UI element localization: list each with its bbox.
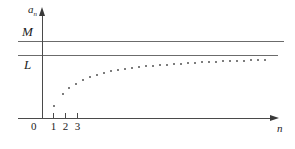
data-point [75, 83, 77, 85]
data-point [96, 74, 98, 76]
data-point [103, 72, 105, 74]
data-point [173, 63, 175, 65]
data-point [159, 64, 161, 66]
data-point [145, 65, 147, 67]
data-point [180, 63, 182, 65]
data-point [124, 68, 126, 70]
data-point [187, 62, 189, 64]
data-point [89, 76, 91, 78]
x-axis-tick [53, 113, 54, 119]
x-axis [18, 118, 273, 119]
x-axis-arrow-icon [270, 115, 279, 121]
sequence-convergence-figure: M L an n 0 123 [0, 0, 295, 149]
data-point [222, 60, 224, 62]
data-point [229, 60, 231, 62]
data-point [250, 59, 252, 61]
y-axis-label: an [28, 4, 37, 18]
data-point [208, 61, 210, 63]
data-point [53, 105, 55, 107]
y-axis [42, 14, 43, 119]
data-point [62, 93, 64, 95]
y-axis-arrow-icon [39, 7, 45, 16]
x-axis-tick [65, 113, 66, 119]
origin-label: 0 [31, 121, 37, 132]
x-axis-tick-label: 2 [61, 121, 71, 132]
x-axis-tick-label: 1 [49, 121, 59, 132]
data-point [264, 59, 266, 61]
data-point [68, 87, 70, 89]
data-point [215, 61, 217, 63]
data-point [138, 66, 140, 68]
y-axis-label-subscript: n [34, 10, 38, 18]
data-point [166, 64, 168, 66]
data-point [110, 70, 112, 72]
x-axis-tick-label: 3 [73, 121, 83, 132]
upper-bound-line-M [18, 41, 284, 42]
data-point [82, 79, 84, 81]
data-point [236, 60, 238, 62]
data-point [131, 67, 133, 69]
data-point [152, 65, 154, 67]
data-point [194, 62, 196, 64]
limit-label: L [24, 58, 31, 71]
data-point [243, 60, 245, 62]
data-point [201, 61, 203, 63]
data-point [117, 69, 119, 71]
limit-line-L [18, 55, 278, 56]
data-point [257, 59, 259, 61]
upper-bound-label: M [22, 25, 33, 38]
x-axis-tick [77, 113, 78, 119]
x-axis-label: n [277, 123, 283, 134]
